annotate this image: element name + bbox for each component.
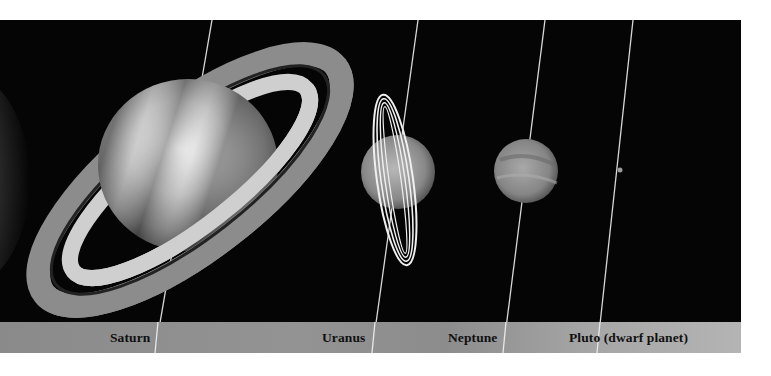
pluto-axis bbox=[597, 20, 633, 322]
planets-illustration bbox=[0, 20, 741, 322]
pluto-planet bbox=[618, 168, 623, 173]
label-uranus: Uranus bbox=[322, 330, 365, 346]
label-pluto: Pluto (dwarf planet) bbox=[569, 330, 688, 346]
planet-label-bar: Saturn Uranus Neptune Pluto (dwarf plane… bbox=[0, 322, 741, 353]
uranus-planet bbox=[361, 135, 435, 209]
jupiter-edge bbox=[0, 70, 30, 290]
neptune-planet bbox=[494, 139, 558, 203]
label-neptune: Neptune bbox=[448, 330, 497, 346]
space-background bbox=[0, 20, 741, 322]
label-saturn: Saturn bbox=[110, 330, 150, 346]
